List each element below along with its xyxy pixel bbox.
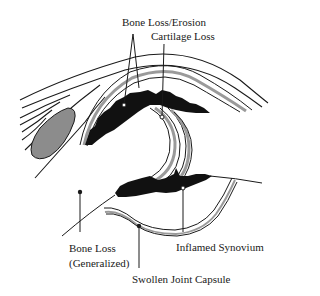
label-bone-loss-line2: (Generalized) — [69, 257, 129, 269]
label-bone-loss-line1: Bone Loss — [69, 242, 129, 254]
label-inflamed-synovium: Inflamed Synovium — [176, 241, 264, 253]
label-bone-loss-generalized: Bone Loss (Generalized) — [69, 242, 129, 269]
label-cartilage-loss: Cartilage Loss — [151, 30, 215, 42]
label-bone-loss-erosion: Bone Loss/Erosion — [122, 16, 206, 28]
articular-cartilage — [150, 108, 192, 182]
label-swollen-joint-capsule: Swollen Joint Capsule — [132, 273, 230, 285]
